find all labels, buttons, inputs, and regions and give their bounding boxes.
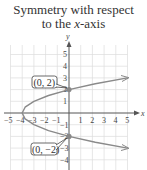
svg-text:−2: −2 — [40, 116, 49, 125]
graph: x y −5 −4 −3 −2 −1 1 2 3 4 5 5 4 3 2 1 −… — [0, 0, 147, 170]
svg-text:−4: −4 — [60, 156, 69, 165]
x-axis — [4, 111, 140, 116]
svg-text:3: 3 — [102, 116, 106, 125]
svg-text:1: 1 — [79, 116, 83, 125]
svg-text:5: 5 — [63, 50, 67, 59]
svg-text:−5: −5 — [4, 116, 13, 125]
svg-text:2: 2 — [90, 116, 94, 125]
svg-text:−1: −1 — [60, 121, 69, 130]
point-0-2 — [66, 87, 71, 92]
svg-text:(0, −2): (0, −2) — [32, 144, 59, 156]
y-tick-labels: 5 4 3 2 1 −1 −2 −3 −4 — [60, 50, 69, 165]
svg-text:5: 5 — [125, 116, 129, 125]
svg-text:(0, 2): (0, 2) — [34, 77, 56, 89]
svg-text:−4: −4 — [16, 116, 25, 125]
svg-text:1: 1 — [63, 97, 67, 106]
svg-text:−3: −3 — [60, 144, 69, 153]
svg-text:4: 4 — [63, 62, 67, 71]
svg-text:4: 4 — [114, 116, 118, 125]
y-axis-label: y — [65, 32, 70, 41]
x-axis-label: x — [140, 109, 145, 118]
svg-text:3: 3 — [63, 74, 67, 83]
